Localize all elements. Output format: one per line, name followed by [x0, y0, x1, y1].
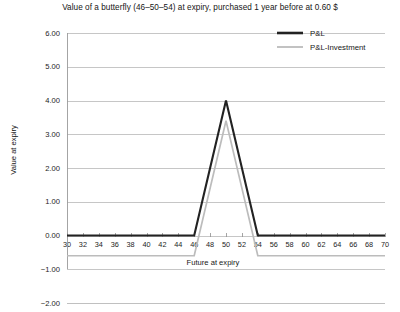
x-tick-label-48: 48 [206, 240, 214, 249]
x-tick-label-70: 70 [381, 240, 389, 249]
y-tick-label--2: −2.00 [41, 299, 60, 308]
y-tick-labels-group: 6.005.004.003.002.001.000.00−1.00−2.00 [41, 29, 60, 308]
y-tick-label-0: 0.00 [45, 231, 60, 240]
y-tick-label-3: 3.00 [45, 130, 60, 139]
x-tick-label-44: 44 [174, 240, 182, 249]
x-tick-label-32: 32 [79, 240, 87, 249]
x-tick-label-66: 66 [349, 240, 357, 249]
y-tick-label-5: 5.00 [45, 62, 60, 71]
x-tick-label-36: 36 [111, 240, 119, 249]
x-tick-label-56: 56 [270, 240, 278, 249]
x-tick-labels-group: 3032343638404244464850525456586062646668… [63, 240, 389, 249]
x-tick-label-60: 60 [301, 240, 309, 249]
x-tick-label-64: 64 [333, 240, 341, 249]
x-tick-label-40: 40 [142, 240, 150, 249]
chart-legend: P&LP&L-Investment [277, 29, 366, 52]
x-tick-label-58: 58 [286, 240, 294, 249]
x-axis-title: Future at expiry [187, 258, 240, 267]
y-tick-label--1: −1.00 [41, 265, 60, 274]
legend-label-pl-investment: P&L-Investment [310, 43, 366, 52]
x-tick-label-42: 42 [158, 240, 166, 249]
y-tick-label-4: 4.00 [45, 96, 60, 105]
y-tick-label-2: 2.00 [45, 164, 60, 173]
y-tick-label-6: 6.00 [45, 29, 60, 38]
chart-container: Value of a butterfly (46–50–54) at expir… [0, 0, 400, 312]
x-tick-label-30: 30 [63, 240, 71, 249]
y-axis-title: Value at expiry [9, 125, 18, 175]
legend-label-pl: P&L [310, 29, 325, 38]
x-tick-label-50: 50 [222, 240, 230, 249]
y-tick-label-1: 1.00 [45, 197, 60, 206]
x-tick-label-52: 52 [238, 240, 246, 249]
series-group [67, 101, 385, 256]
x-tick-label-68: 68 [365, 240, 373, 249]
x-tick-label-38: 38 [127, 240, 135, 249]
x-tick-label-34: 34 [95, 240, 103, 249]
x-tick-label-62: 62 [317, 240, 325, 249]
chart-svg: 6.005.004.003.002.001.000.00−1.00−2.00 3… [0, 0, 400, 312]
